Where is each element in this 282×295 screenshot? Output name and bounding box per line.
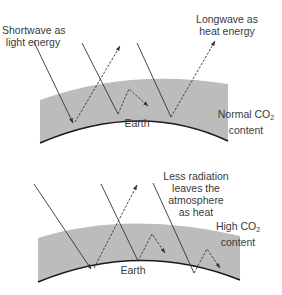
- shortwave-label: Shortwave as light energy: [2, 24, 64, 48]
- normal-co2-label: Normal CO2 content: [210, 108, 282, 136]
- high-co2-label: High CO2 content: [208, 220, 268, 248]
- longwave-label-line2: heat energy: [192, 25, 262, 37]
- atmosphere-band-top: [40, 79, 228, 143]
- longwave-label: Longwave as heat energy: [192, 13, 262, 37]
- earth-label-bottom: Earth: [118, 264, 148, 276]
- high-co2-line2: content: [208, 236, 268, 248]
- less-radiation-line1: Less radiation: [158, 170, 234, 182]
- less-radiation-line4: as heat: [158, 206, 234, 218]
- shortwave-label-line2: light energy: [2, 36, 64, 48]
- shortwave-label-line1: Shortwave as: [2, 24, 64, 36]
- less-radiation-line3: atmosphere: [158, 194, 234, 206]
- normal-co2-line2: content: [210, 124, 282, 136]
- less-radiation-label: Less radiation leaves the atmosphere as …: [158, 170, 234, 218]
- earth-label-top: Earth: [122, 117, 152, 129]
- longwave-label-line1: Longwave as: [192, 13, 262, 25]
- less-radiation-line2: leaves the: [158, 182, 234, 194]
- high-co2-line1: High CO2: [208, 220, 268, 236]
- normal-co2-line1: Normal CO2: [210, 108, 282, 124]
